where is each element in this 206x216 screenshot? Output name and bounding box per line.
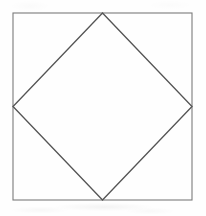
outer-square (13, 13, 192, 200)
inscribed-diamond (13, 13, 192, 200)
figure-svg (0, 0, 206, 216)
geometry-figure (0, 0, 206, 216)
